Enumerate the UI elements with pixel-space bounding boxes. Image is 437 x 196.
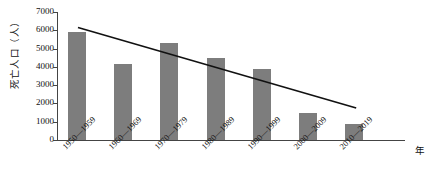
y-axis-tick-labels: 01000200030004000500060007000 xyxy=(14,0,54,196)
y-axis-tick-label: 0 xyxy=(20,135,54,144)
y-axis-tick-label: 6000 xyxy=(20,25,54,34)
y-axis-tick-mark xyxy=(53,103,57,104)
trendline-path xyxy=(78,28,356,108)
bar-chart: 死亡人口（人） 01000200030004000500060007000 19… xyxy=(0,0,437,196)
y-axis-tick-mark xyxy=(53,12,57,13)
y-axis-tick-mark xyxy=(53,49,57,50)
y-axis-tick-mark xyxy=(53,30,57,31)
y-axis-tick-label: 3000 xyxy=(20,80,54,89)
y-axis-tick-label: 1000 xyxy=(20,117,54,126)
y-axis-tick-mark xyxy=(53,85,57,86)
y-axis-tick-mark xyxy=(53,67,57,68)
y-axis-tick-label: 5000 xyxy=(20,44,54,53)
y-axis-tick-label: 7000 xyxy=(20,7,54,16)
y-axis-tick-mark xyxy=(53,140,57,141)
y-axis-tick-mark xyxy=(53,122,57,123)
x-axis-tick-labels: 1950—19591960—19691970—19791980—19891990… xyxy=(57,145,437,195)
y-axis-tick-label: 4000 xyxy=(20,62,54,71)
x-axis-unit-label: 年 xyxy=(415,143,425,157)
y-axis-tick-label: 2000 xyxy=(20,98,54,107)
